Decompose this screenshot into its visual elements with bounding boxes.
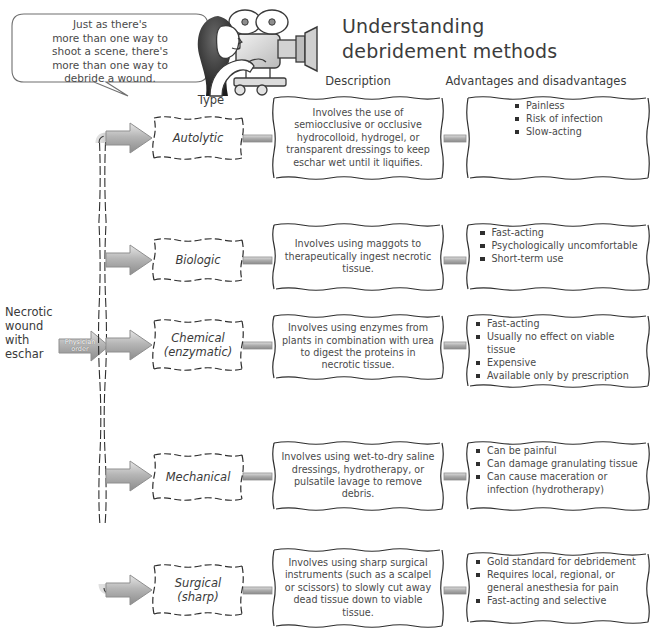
advantages-box: Can be painful Can damage granulating ti… bbox=[466, 440, 650, 512]
advantages-list: Gold standard for debridement Requires l… bbox=[476, 555, 642, 607]
advantage-item: Painless bbox=[515, 99, 603, 112]
branch-arrow bbox=[106, 330, 152, 360]
description-box: Involves using enzymes from plants in co… bbox=[272, 313, 444, 381]
advantage-item: Fast-acting and selective bbox=[476, 594, 642, 607]
advantage-item: Fast-acting bbox=[480, 226, 637, 239]
advantage-item: Slow-acting bbox=[515, 125, 603, 138]
advantages-list: Fast-acting Usually no effect on viable … bbox=[476, 317, 642, 382]
type-label-line: Chemical bbox=[171, 331, 224, 345]
type-label-line: (sharp) bbox=[177, 590, 218, 604]
advantage-item: Short-term use bbox=[480, 252, 637, 265]
advantage-item: Requires local, regional, or general ane… bbox=[476, 568, 642, 594]
advantage-item: Can be painful bbox=[476, 444, 642, 457]
description-text: Involves the use of semiocclusive or occ… bbox=[272, 95, 444, 181]
type-label-line: Biologic bbox=[175, 253, 220, 267]
advantages-list: Fast-acting Psychologically uncomfortabl… bbox=[480, 226, 637, 265]
advantages-box: Fast-acting Usually no effect on viable … bbox=[466, 313, 650, 389]
description-box: Involves the use of semiocclusive or occ… bbox=[272, 95, 444, 181]
row-connector bbox=[444, 587, 466, 594]
description-box: Involves using wet-to-dry saline dressin… bbox=[272, 440, 444, 512]
advantage-item: Fast-acting bbox=[476, 317, 642, 330]
row-connector bbox=[243, 473, 272, 480]
type-label-line: Surgical bbox=[175, 576, 221, 590]
description-text: Involves using wet-to-dry saline dressin… bbox=[272, 440, 444, 512]
type-box: Chemical (enzymatic) bbox=[152, 318, 244, 372]
advantage-item: Usually no effect on viable tissue bbox=[476, 330, 642, 356]
advantage-item: Gold standard for debridement bbox=[476, 555, 642, 568]
type-label-line: (enzymatic) bbox=[164, 345, 232, 359]
advantages-box: Painless Risk of infection Slow-acting bbox=[466, 95, 650, 181]
row-connector bbox=[243, 587, 272, 594]
row-connector bbox=[444, 342, 466, 349]
row-connector bbox=[243, 257, 272, 264]
advantage-item: Expensive bbox=[476, 356, 642, 369]
type-label: Chemical (enzymatic) bbox=[152, 318, 244, 372]
branch-arrow bbox=[106, 123, 152, 153]
type-box: Autolytic bbox=[152, 115, 244, 161]
advantage-item: Can damage granulating tissue bbox=[476, 457, 642, 470]
type-box: Mechanical bbox=[152, 452, 244, 502]
row-connector bbox=[243, 342, 272, 349]
description-box: Involves using sharp surgical instrument… bbox=[272, 547, 444, 629]
advantage-item: Available only by prescription bbox=[476, 369, 642, 382]
type-label: Surgical (sharp) bbox=[152, 563, 244, 617]
advantage-item: Risk of infection bbox=[515, 112, 603, 125]
row-connector bbox=[243, 135, 272, 142]
type-label: Mechanical bbox=[152, 452, 244, 502]
type-box: Biologic bbox=[152, 237, 244, 283]
description-text: Involves using sharp surgical instrument… bbox=[272, 547, 444, 629]
row-connector bbox=[444, 473, 466, 480]
description-box: Involves using maggots to therapeuticall… bbox=[272, 222, 444, 292]
branch-arrow bbox=[106, 575, 152, 605]
row-connector bbox=[444, 135, 466, 142]
type-box: Surgical (sharp) bbox=[152, 563, 244, 617]
row-connector bbox=[444, 257, 466, 264]
description-text: Involves using maggots to therapeuticall… bbox=[272, 222, 444, 292]
advantages-list: Painless Risk of infection Slow-acting bbox=[515, 99, 603, 138]
advantage-item: Can cause maceration or infection (hydro… bbox=[476, 470, 642, 496]
branch-arrow bbox=[106, 461, 152, 491]
branch-arrow bbox=[106, 245, 152, 275]
type-label-line: Mechanical bbox=[166, 470, 231, 484]
advantages-box: Gold standard for debridement Requires l… bbox=[466, 551, 650, 625]
type-label-line: Autolytic bbox=[173, 131, 224, 145]
advantage-item: Psychologically uncomfortable bbox=[480, 239, 637, 252]
type-label: Autolytic bbox=[152, 115, 244, 161]
advantages-box: Fast-acting Psychologically uncomfortabl… bbox=[466, 222, 650, 292]
type-label: Biologic bbox=[152, 237, 244, 283]
description-text: Involves using enzymes from plants in co… bbox=[272, 313, 444, 381]
advantages-list: Can be painful Can damage granulating ti… bbox=[476, 444, 642, 496]
